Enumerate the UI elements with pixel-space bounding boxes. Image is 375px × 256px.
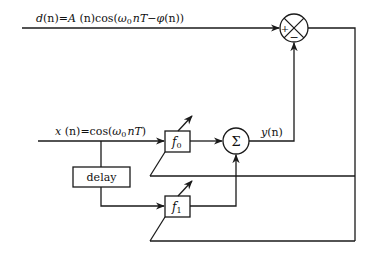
filter-f1-block: f1	[165, 181, 192, 217]
output-signal-label: y(n)	[260, 126, 283, 139]
delay-block: delay	[73, 167, 130, 187]
plus-sign: +	[281, 23, 289, 34]
sigma-label: Σ	[231, 134, 240, 149]
filter-f0-block: f0	[165, 116, 192, 152]
minus-sign: −	[289, 31, 298, 44]
adaptation-arrow-f0	[178, 116, 192, 131]
adaptation-arrow-f1	[178, 181, 192, 196]
adaptive-filter-diagram: d(n)=A (n)cos(ω0nT−φ(n)) + − x (n)=cos(ω…	[0, 0, 375, 256]
delay-to-f1-line	[101, 187, 164, 206]
f1-to-sum-line	[190, 155, 236, 206]
error-junction: + −	[280, 14, 308, 44]
desired-signal-label: d(n)=A (n)cos(ω0nT−φ(n))	[36, 12, 184, 26]
input-signal-label: x (n)=cos(ω0nT)	[55, 125, 146, 139]
delay-label: delay	[87, 171, 118, 184]
summation-node: Σ	[223, 128, 249, 154]
